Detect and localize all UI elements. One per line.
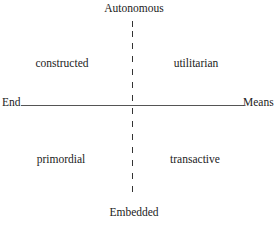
vertical-axis-dash — [132, 121, 133, 127]
axis-label-embedded: Embedded — [109, 207, 158, 219]
axis-label-autonomous: Autonomous — [104, 3, 163, 15]
vertical-axis-dash — [132, 69, 133, 75]
quadrant-label-top-right: utilitarian — [174, 58, 219, 70]
vertical-axis-dash — [132, 95, 133, 101]
vertical-axis-dash — [132, 21, 133, 27]
vertical-axis-dash — [132, 43, 133, 49]
vertical-axis-dash — [132, 56, 133, 62]
quadrant-label-bottom-right: transactive — [170, 154, 220, 166]
vertical-axis-dash — [132, 160, 133, 166]
vertical-axis-dash — [132, 173, 133, 179]
vertical-axis-dash — [132, 31, 133, 37]
quadrant-label-bottom-left: primordial — [37, 154, 86, 166]
vertical-axis-dash — [132, 147, 133, 153]
vertical-axis-dash — [132, 82, 133, 88]
horizontal-axis-line — [21, 105, 244, 106]
axis-label-means: Means — [243, 97, 274, 109]
axis-label-end: End — [2, 97, 21, 109]
vertical-axis-dash — [132, 134, 133, 140]
quadrant-diagram: Autonomous End Means constructed utilita… — [0, 0, 278, 227]
vertical-axis-dash — [132, 108, 133, 114]
vertical-axis-dash — [132, 186, 133, 192]
quadrant-label-top-left: constructed — [35, 58, 88, 70]
